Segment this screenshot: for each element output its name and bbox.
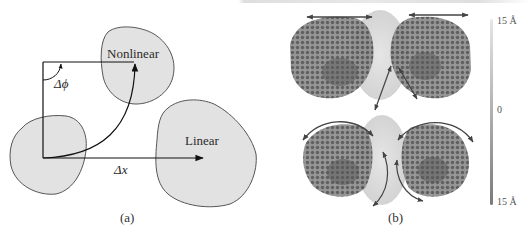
panel-a-diagram: Nonlinear Linear Δϕ Δx⃗ (a) xyxy=(0,0,265,243)
colorbar-mid-label: 0 xyxy=(497,104,502,115)
delta-x-label: Δx⃗ xyxy=(114,162,138,178)
colorbar-top-label: 15 Å xyxy=(497,15,517,26)
panel-b-caption: (b) xyxy=(388,210,403,226)
panel-a-graphics xyxy=(0,0,265,243)
nonlinear-label: Nonlinear xyxy=(107,46,159,62)
top-protein-conformation xyxy=(290,10,471,100)
initial-state-blob xyxy=(10,116,86,195)
delta-phi-label: Δϕ xyxy=(54,76,68,92)
displacement-colorbar xyxy=(490,19,493,205)
panel-b-graphics xyxy=(265,0,530,243)
linear-label: Linear xyxy=(185,133,219,149)
colorbar-bottom-label: 15 Å xyxy=(497,196,517,207)
panel-a-caption: (a) xyxy=(120,210,134,226)
linear-state-blob xyxy=(156,100,256,207)
panel-b-protein-structure: 15 Å 0 15 Å (b) xyxy=(265,0,530,243)
nonlinear-state-blob xyxy=(101,27,174,104)
